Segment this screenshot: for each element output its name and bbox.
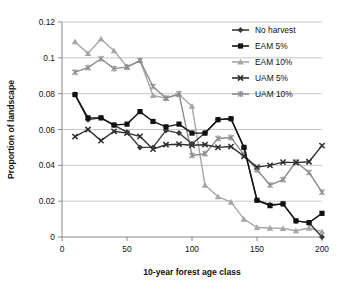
x-tick-label: 100 <box>185 244 199 254</box>
series-marker <box>215 117 220 122</box>
x-tick-label: 200 <box>315 244 329 254</box>
x-tick-label: 0 <box>60 244 65 254</box>
y-axis-label: Proportion of landscape <box>6 80 16 179</box>
series-marker <box>137 109 142 114</box>
series-marker <box>319 211 324 216</box>
chart-container: 00.020.040.060.080.10.1205010015020010-y… <box>0 0 343 285</box>
series-marker <box>293 218 298 223</box>
series-marker <box>280 201 285 206</box>
series-marker <box>111 122 116 127</box>
series-marker <box>254 198 259 203</box>
series-marker <box>306 220 311 225</box>
y-tick-label: 0.08 <box>39 89 56 99</box>
series-marker <box>267 203 272 208</box>
y-axis-ticks: 00.020.040.060.080.10.12 <box>39 17 62 242</box>
legend-label: EAM 10% <box>255 57 293 67</box>
y-tick-label: 0.04 <box>39 160 56 170</box>
x-tick-label: 150 <box>250 244 264 254</box>
y-tick-label: 0.1 <box>43 53 55 63</box>
legend-label: UAM 5% <box>255 73 289 83</box>
y-tick-label: 0.12 <box>39 17 56 27</box>
series-marker <box>241 145 246 150</box>
series-marker <box>228 116 233 121</box>
series-marker <box>72 92 77 97</box>
series-marker <box>163 124 168 129</box>
y-tick-label: 0.06 <box>39 125 56 135</box>
line-chart: 00.020.040.060.080.10.1205010015020010-y… <box>0 0 343 285</box>
legend-label: No harvest <box>255 25 296 35</box>
series-marker <box>202 130 207 135</box>
series-marker <box>98 115 103 120</box>
x-axis-ticks: 050100150200 <box>60 237 330 254</box>
legend-label: UAM 10% <box>255 89 293 99</box>
x-axis-label: 10-year forest age class <box>143 267 241 277</box>
y-tick-label: 0 <box>50 232 55 242</box>
legend-marker <box>238 43 243 48</box>
series-marker <box>85 115 90 120</box>
y-tick-label: 0.02 <box>39 196 56 206</box>
series-marker <box>150 119 155 124</box>
legend-label: EAM 5% <box>255 41 288 51</box>
series-marker <box>189 130 194 135</box>
series-marker <box>124 122 129 127</box>
series-marker <box>176 122 181 127</box>
x-tick-label: 50 <box>122 244 132 254</box>
